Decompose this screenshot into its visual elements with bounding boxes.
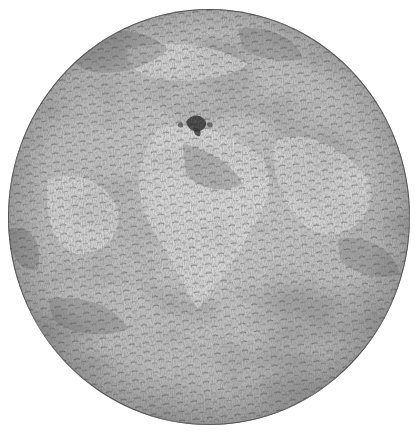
globe-illustration <box>8 9 410 425</box>
caption <box>30 429 388 435</box>
globe-disc <box>8 9 410 425</box>
globe-engraving <box>8 9 410 425</box>
rim-shadow <box>8 9 410 425</box>
